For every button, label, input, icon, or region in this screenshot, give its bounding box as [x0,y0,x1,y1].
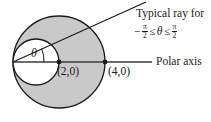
polar-axis-label: Polar axis [156,56,202,68]
pi-over-two-right: π 2 [172,23,178,40]
pi-numerator-right: π [172,23,178,31]
less-equal-left: ≤ [149,26,155,37]
less-equal-right: ≤ [164,26,170,37]
theta-angle-label: θ [31,47,37,59]
point-marker-2-0 [57,60,62,65]
minus-sign: − [134,26,141,38]
pi-numerator-left: π [142,23,148,31]
two-denominator-left: 2 [142,31,148,40]
two-denominator-right: 2 [172,31,178,40]
point-label-2-0: (2,0) [57,66,79,78]
typical-ray-caption: Typical ray for [136,8,204,20]
theta-variable: θ [157,26,163,38]
point-label-4-0: (4,0) [108,66,130,78]
point-marker-4-0 [103,60,108,65]
pi-over-two-left: π 2 [142,23,148,40]
theta-range-caption: − π 2 ≤ θ ≤ π 2 [134,23,177,40]
polar-coordinates-diagram: Typical ray for − π 2 ≤ θ ≤ π 2 Polar ax… [0,0,211,122]
